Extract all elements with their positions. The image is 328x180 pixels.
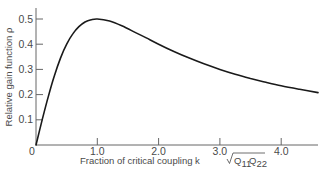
x-tick-label: 4.0 (274, 145, 289, 157)
y-axis-title: Relative gain function ρ (3, 27, 14, 126)
y-tick-label: 0.5 (18, 13, 33, 25)
x-tick-label: 0 (29, 145, 35, 157)
y-tick-label: 0.1 (18, 113, 33, 125)
x-axis-title: Fraction of critical coupling k Q 11 Q 2… (80, 153, 267, 169)
gain-curve (36, 19, 318, 145)
svg-text:Q: Q (249, 155, 256, 166)
y-tick-label: 0.2 (18, 88, 33, 100)
gain-function-chart: 0.10.20.30.40.5 01.02.03.04.0 Relative g… (0, 0, 328, 180)
svg-text:Q: Q (234, 155, 241, 166)
y-tick-label: 0.3 (18, 63, 33, 75)
svg-text:Fraction of critical coupling: Fraction of critical coupling k (80, 155, 200, 166)
x-tick-label: 3.0 (213, 145, 228, 157)
y-tick-label: 0.4 (18, 38, 33, 50)
svg-text:22: 22 (257, 158, 268, 169)
y-axis-ticks: 0.10.20.30.40.5 (18, 13, 43, 126)
